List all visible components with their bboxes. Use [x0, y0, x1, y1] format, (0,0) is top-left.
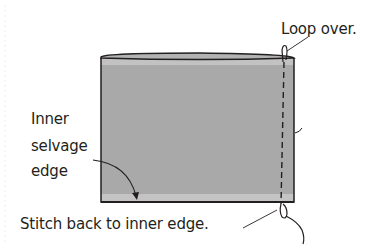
- label-inner-selvage-3: edge: [31, 164, 68, 179]
- top-rolled-edge: [101, 53, 294, 60]
- label-loop-over: Loop over.: [281, 22, 357, 37]
- label-stitch-back: Stitch back to inner edge.: [20, 217, 209, 232]
- loop-over-pointer: [287, 37, 308, 51]
- label-inner-selvage-2: selvage: [31, 139, 88, 154]
- thread-tail: [286, 216, 304, 244]
- fabric-band: [101, 53, 294, 202]
- stitch-back-pointer: [243, 210, 277, 228]
- thread-tick: [295, 128, 302, 133]
- diagram-canvas: Loop over. Inner selvage edge Stitch bac…: [0, 0, 389, 249]
- label-inner-selvage-1: Inner: [31, 112, 69, 127]
- bottom-loop: [280, 204, 287, 218]
